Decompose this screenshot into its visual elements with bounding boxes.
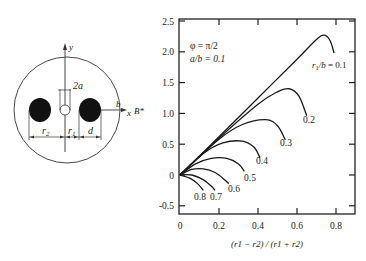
y-axis-arrow-icon bbox=[63, 43, 67, 50]
y-tick-label: 1.0 bbox=[162, 109, 174, 119]
y-tick-label: -0.5 bbox=[159, 201, 174, 211]
x-tick-label: 0.6 bbox=[291, 221, 303, 231]
d-label: d bbox=[88, 125, 94, 136]
arrowhead-icon bbox=[96, 136, 100, 139]
x-tick-label: 0.8 bbox=[330, 221, 342, 231]
curve-label: 0.6 bbox=[228, 184, 240, 194]
r2-label: r2 bbox=[42, 125, 50, 138]
curve-label: 0.4 bbox=[256, 156, 268, 166]
y-tick-label: 0 bbox=[169, 171, 174, 181]
curve-label: 0.7 bbox=[210, 192, 222, 202]
y-tick-label: 1.5 bbox=[162, 78, 174, 88]
chart: 2.52.01.51.00.50-0.5 00.20.40.60.8 r1/b … bbox=[159, 17, 355, 250]
y-tick-label: 2.0 bbox=[162, 47, 174, 57]
x-tick-label: 0.2 bbox=[213, 221, 225, 231]
x-tick-label: 0 bbox=[178, 221, 183, 231]
radius-b-label: b bbox=[116, 99, 121, 109]
x-axis-label: x bbox=[126, 108, 131, 118]
arrowhead-icon bbox=[80, 136, 84, 139]
annotation-phi: φ = π/2 bbox=[190, 41, 218, 51]
curve-0.3 bbox=[180, 120, 285, 175]
aperture-label: 2a bbox=[73, 80, 83, 91]
aperture-circle bbox=[60, 105, 70, 115]
x-tick-label: 0.4 bbox=[252, 221, 264, 231]
curve-label: 0.2 bbox=[303, 115, 315, 125]
y-ticks: 2.52.01.51.00.50-0.5 bbox=[159, 17, 355, 212]
x-axis-title: (r1 − r2) / (r1 + r2) bbox=[231, 239, 303, 249]
curve-0.8 bbox=[180, 175, 203, 190]
y-tick-label: 2.5 bbox=[162, 17, 174, 27]
curve-labels: r1/b = 0.10.20.30.40.50.60.70.8 bbox=[194, 60, 347, 202]
arrowhead-icon bbox=[60, 136, 64, 139]
field-label: B* bbox=[134, 106, 144, 116]
y-axis-label: y bbox=[68, 42, 73, 52]
annotation-ab: a/b = 0.1 bbox=[190, 54, 225, 64]
cross-section-diagram: y x B* b 2a r2 r1 d bbox=[14, 42, 144, 163]
curve-label: 0.8 bbox=[194, 192, 206, 202]
conductor-left bbox=[29, 98, 51, 122]
figure: y x B* b 2a r2 r1 d 2.52.01.51.00.50-0.5 bbox=[0, 0, 366, 261]
conductor-right bbox=[79, 98, 101, 122]
y-tick-label: 0.5 bbox=[162, 140, 174, 150]
curve-label: r1/b = 0.1 bbox=[312, 60, 347, 71]
arrowhead-icon bbox=[30, 136, 34, 139]
curve-0.6 bbox=[180, 169, 229, 184]
curve-label: 0.5 bbox=[244, 173, 256, 183]
curve-label: 0.3 bbox=[280, 138, 292, 148]
